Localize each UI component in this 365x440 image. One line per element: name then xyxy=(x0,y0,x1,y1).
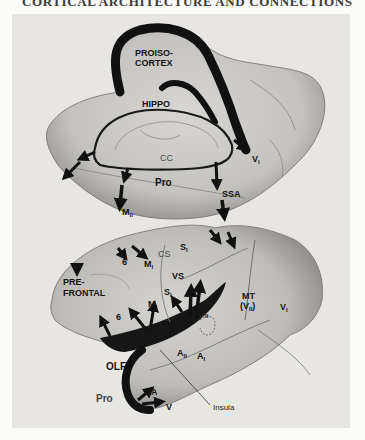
label-v: V xyxy=(166,403,172,412)
label-vs: VS xyxy=(172,272,184,281)
label-m2: MII xyxy=(122,208,133,218)
label-pro-medial: Pro xyxy=(155,178,172,188)
label-v2: (VII) xyxy=(240,302,255,312)
label-cc: CC xyxy=(160,154,173,163)
label-proisocortex-line2: CORTEX xyxy=(135,59,173,68)
label-m1-top: MI xyxy=(144,260,153,270)
label-v1-medial: VI xyxy=(252,155,260,165)
label-cs: CS xyxy=(158,250,171,259)
brain-diagram xyxy=(0,0,365,440)
label-olf: OLF xyxy=(106,362,126,372)
label-6-mid: 6 xyxy=(116,313,121,322)
label-s1-mid: SI xyxy=(164,288,172,298)
label-prefrontal-line1: PRE- xyxy=(63,278,85,287)
label-6-top: 6 xyxy=(122,258,127,267)
label-s1-top: SI xyxy=(180,243,188,253)
label-insula: Insula xyxy=(213,404,234,412)
label-pro-lateral: Pro xyxy=(96,394,113,404)
label-proisocortex-line1: PROISO- xyxy=(135,49,173,58)
label-mt: MT xyxy=(242,292,255,301)
label-s2: SII xyxy=(199,309,208,319)
label-prefrontal-line2: FRONTAL xyxy=(63,289,105,298)
label-a2: AII xyxy=(177,349,187,359)
label-a1: AI xyxy=(197,352,205,362)
medial-hemisphere xyxy=(46,26,324,219)
label-m1-mid: MI xyxy=(148,300,157,310)
label-ssa: SSA xyxy=(222,190,241,199)
label-v1-lateral: VI xyxy=(280,303,288,313)
label-g: G xyxy=(128,337,135,346)
label-hippo: HIPPO xyxy=(142,100,170,109)
label-a: A xyxy=(151,388,158,397)
